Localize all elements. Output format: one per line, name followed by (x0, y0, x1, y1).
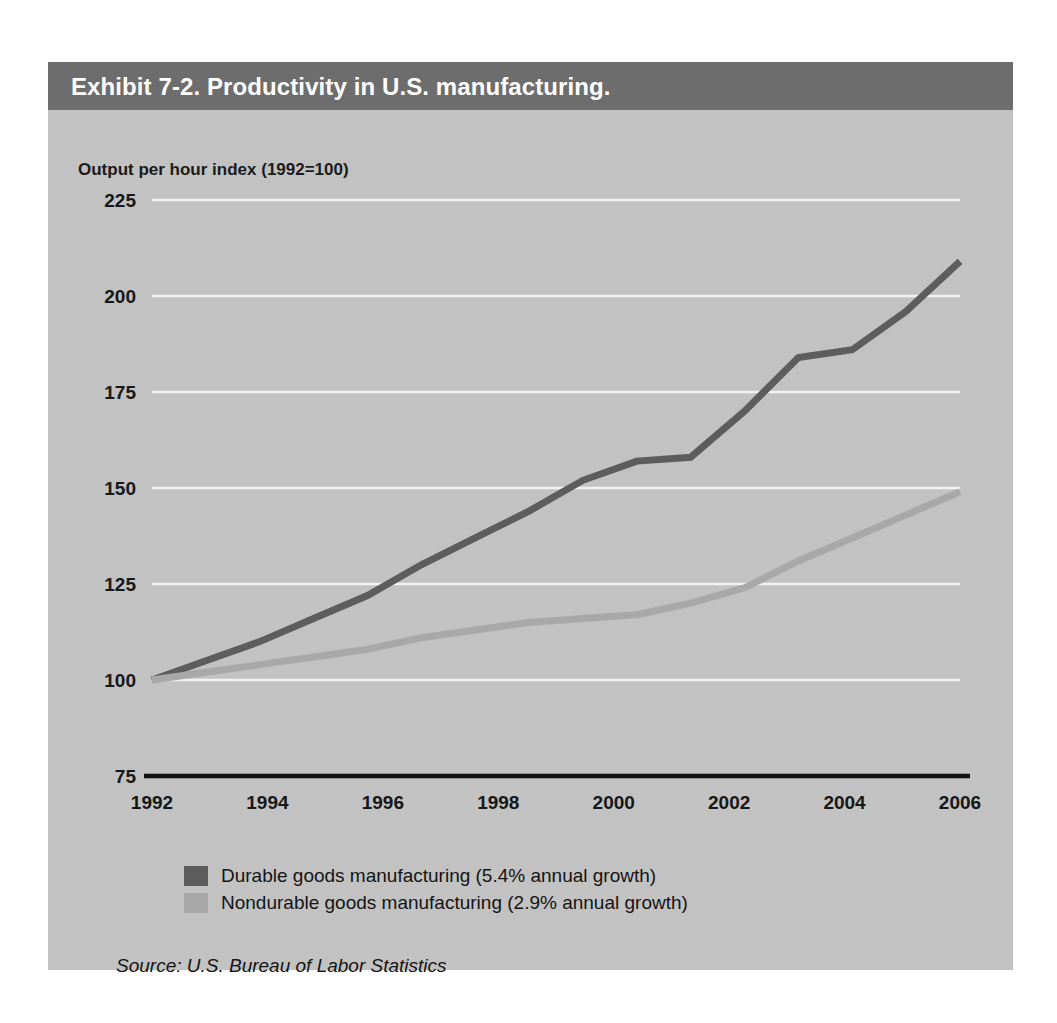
legend-label-nondurable: Nondurable goods manufacturing (2.9% ann… (221, 892, 688, 914)
y-tick-label: 175 (104, 382, 136, 403)
source-note: Source: U.S. Bureau of Labor Statistics (116, 955, 447, 977)
chart-plot-region: Output per hour index (1992=100) 2252001… (48, 110, 1013, 970)
x-tick-label: 2000 (593, 792, 635, 813)
exhibit-header-band: Exhibit 7-2. Productivity in U.S. manufa… (48, 62, 1013, 110)
x-tick-labels: 19921994199619982000200220042006 (131, 792, 981, 813)
y-tick-labels: 22520017515012510075 (104, 190, 136, 787)
legend-swatch-nondurable (184, 893, 208, 913)
x-tick-label: 2006 (939, 792, 981, 813)
exhibit-figure: Exhibit 7-2. Productivity in U.S. manufa… (48, 62, 1013, 970)
chart-legend: Durable goods manufacturing (5.4% annual… (184, 862, 688, 916)
x-tick-label: 1992 (131, 792, 173, 813)
y-tick-label: 200 (104, 286, 136, 307)
y-tick-label: 75 (115, 766, 137, 787)
series-lines (152, 261, 960, 680)
legend-item-durable: Durable goods manufacturing (5.4% annual… (184, 862, 688, 889)
x-tick-label: 1998 (477, 792, 519, 813)
y-tick-label: 150 (104, 478, 136, 499)
legend-item-nondurable: Nondurable goods manufacturing (2.9% ann… (184, 889, 688, 916)
x-tick-label: 1996 (362, 792, 404, 813)
gridlines (152, 200, 960, 680)
x-tick-label: 2002 (708, 792, 750, 813)
legend-label-durable: Durable goods manufacturing (5.4% annual… (221, 865, 656, 887)
y-tick-label: 125 (104, 574, 136, 595)
x-tick-label: 1994 (246, 792, 289, 813)
series-line-nondurable (152, 492, 960, 680)
y-tick-label: 100 (104, 670, 136, 691)
exhibit-title: Exhibit 7-2. Productivity in U.S. manufa… (71, 73, 611, 101)
legend-swatch-durable (184, 866, 208, 886)
x-tick-label: 2004 (823, 792, 866, 813)
y-tick-label: 225 (104, 190, 136, 211)
line-chart: 22520017515012510075 1992199419961998200… (48, 110, 1013, 970)
